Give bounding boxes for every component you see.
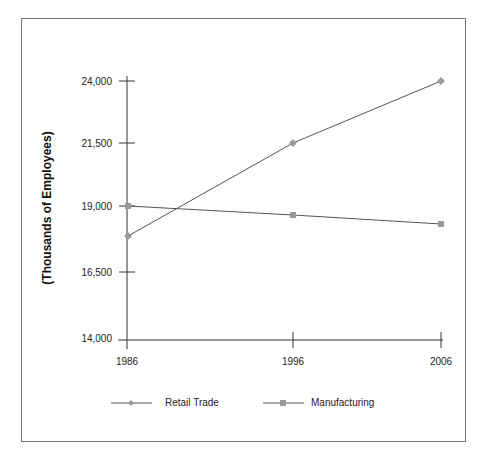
x-tick-label: 1996 [282,356,305,367]
square-icon [280,400,286,406]
y-tick-label: 19,000 [81,201,112,212]
diamond-icon [128,400,134,406]
legend-item-manufacturing: Manufacturing [263,397,374,408]
square-marker [290,212,296,218]
square-marker [438,221,444,227]
y-tick-label: 24,000 [81,76,112,87]
diamond-marker [289,139,297,147]
legend-label: Retail Trade [165,397,219,408]
x-ticks: 1986 1996 2006 [116,332,453,367]
y-axis-label: (Thousands of Employees) [40,131,54,284]
y-tick-label: 14,000 [81,333,112,344]
x-tick-label: 2006 [430,356,453,367]
line-chart: 24,000 21,500 19,000 16,500 14,000 1986 … [0,0,486,463]
square-marker [125,203,131,209]
y-tick-label: 16,500 [81,267,112,278]
legend-label: Manufacturing [311,397,374,408]
x-tick-label: 1986 [116,356,139,367]
legend-item-retail-trade: Retail Trade [111,397,219,408]
series-manufacturing [125,203,444,227]
series-retail-trade [124,77,445,240]
legend: Retail Trade Manufacturing [111,397,374,408]
diamond-marker [124,232,132,240]
y-tick-label: 21,500 [81,138,112,149]
diamond-marker [437,77,445,85]
